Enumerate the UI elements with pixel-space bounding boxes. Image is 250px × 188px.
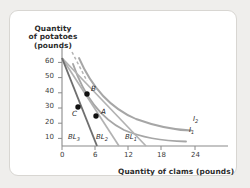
point-label-c: C bbox=[72, 110, 77, 118]
point-label-b: B bbox=[91, 85, 96, 93]
line-label-bl3-sub: 3 bbox=[77, 136, 80, 142]
y-tick-40: 40 bbox=[45, 88, 54, 96]
line-label-bl1-base: BL bbox=[125, 133, 134, 141]
x-tick-18: 18 bbox=[157, 152, 166, 160]
y-tick-50: 50 bbox=[45, 73, 54, 81]
line-label-bl3-base: BL bbox=[68, 133, 77, 141]
x-axis-title: Quantity of clams (pounds) bbox=[118, 168, 234, 176]
point-b bbox=[84, 91, 89, 96]
line-label-bl2-base: BL bbox=[96, 133, 105, 141]
line-label-bl3: BL3 bbox=[68, 134, 80, 143]
y-axis-title-line3: (pounds) bbox=[34, 41, 72, 50]
y-axis-title: Quantity of potatoes (pounds) bbox=[22, 25, 84, 50]
curve-label-i1: I1 bbox=[189, 127, 194, 136]
x-tick-0: 0 bbox=[60, 152, 64, 160]
curve-label-i2: I2 bbox=[193, 116, 198, 125]
x-tick-24: 24 bbox=[191, 152, 200, 160]
curve-label-i1-sub: 1 bbox=[191, 129, 194, 135]
y-tick-marks bbox=[58, 62, 62, 138]
line-label-bl2-sub: 2 bbox=[105, 136, 108, 142]
y-tick-30: 30 bbox=[45, 103, 54, 111]
line-label-bl1: BL1 bbox=[125, 134, 137, 143]
y-tick-60: 60 bbox=[45, 58, 54, 66]
y-tick-20: 20 bbox=[45, 119, 54, 127]
x-tick-6: 6 bbox=[93, 152, 97, 160]
curve-label-i2-sub: 2 bbox=[195, 118, 198, 124]
line-label-bl1-sub: 1 bbox=[134, 136, 137, 142]
point-label-a: A bbox=[101, 108, 106, 116]
line-label-bl2: BL2 bbox=[96, 134, 108, 143]
x-tick-12: 12 bbox=[124, 152, 133, 160]
y-tick-10: 10 bbox=[45, 134, 54, 142]
point-a bbox=[93, 113, 98, 118]
x-tick-marks bbox=[62, 146, 195, 150]
